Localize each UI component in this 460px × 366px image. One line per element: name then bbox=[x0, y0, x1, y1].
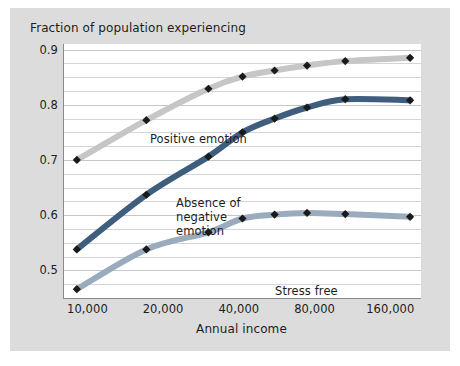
y-tick-label: 0.9 bbox=[24, 43, 58, 57]
series-positive-emotion bbox=[73, 54, 414, 164]
series-label-positive-emotion: Positive emotion bbox=[150, 132, 247, 146]
series-line bbox=[77, 213, 410, 289]
y-tick-label: 0.6 bbox=[24, 208, 58, 222]
chart-title: Fraction of population experiencing bbox=[30, 21, 246, 35]
series-label-stress-free: Stress free bbox=[275, 284, 338, 298]
y-tick-label: 0.5 bbox=[24, 263, 58, 277]
x-axis-title: Annual income bbox=[63, 322, 420, 336]
y-tick-label: 0.7 bbox=[24, 153, 58, 167]
x-tick-label: 10,000 bbox=[67, 302, 108, 316]
x-tick-label: 160,000 bbox=[366, 302, 414, 316]
series-line bbox=[77, 99, 410, 250]
x-tick-label: 80,000 bbox=[294, 302, 335, 316]
series-label-absence-of-negative-emotion: Absence of negative emotion bbox=[176, 196, 241, 238]
y-axis: 0.50.60.70.80.9 bbox=[20, 44, 58, 298]
series-stress-free bbox=[73, 209, 414, 293]
x-axis: 10,00020,00040,00080,000160,000 bbox=[63, 302, 420, 320]
plot-area: Positive emotion Absence of negative emo… bbox=[63, 44, 421, 299]
y-tick-label: 0.8 bbox=[24, 98, 58, 112]
chart-figure: Fraction of population experiencing 0.50… bbox=[0, 0, 460, 366]
series-absence-of-negative-emotion bbox=[73, 95, 414, 253]
x-tick-label: 20,000 bbox=[143, 302, 184, 316]
x-tick-label: 40,000 bbox=[218, 302, 259, 316]
series-layer bbox=[64, 44, 421, 298]
